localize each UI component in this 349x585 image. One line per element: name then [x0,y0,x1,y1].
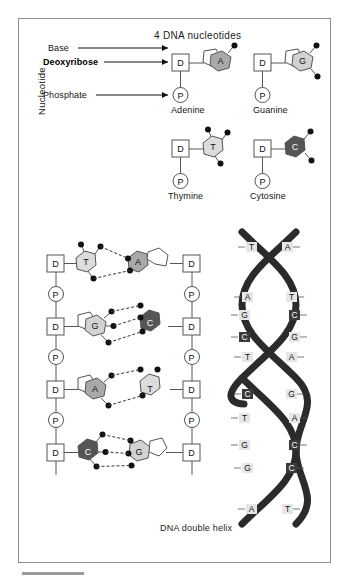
svg-text:D: D [52,448,59,458]
svg-text:D: D [188,322,195,332]
svg-text:G: G [135,447,142,457]
svg-text:P: P [177,91,183,101]
helix-base-1L: T [246,242,257,252]
callout-label-phosphate: Phosphate [43,90,87,100]
helix-base-1R: A [282,242,293,252]
svg-text:D: D [52,322,59,332]
helix-base-7L: T [239,413,250,423]
helix-base-8R: C [289,440,300,450]
helix-base-6R: G [286,389,297,399]
svg-text:D: D [188,385,195,395]
svg-text:P: P [188,290,194,300]
svg-text:A: A [92,384,98,394]
ladder-rung-1 [64,242,183,282]
svg-text:P: P [259,91,265,101]
helix-base-10R: T [282,504,293,514]
helix-base-6L: C [242,389,253,399]
svg-text:P: P [52,290,58,300]
svg-text:A: A [217,56,223,66]
figure-title: 4 DNA nucleotides [154,30,241,41]
svg-text:P: P [52,353,58,363]
helix-base-2L: A [242,292,253,302]
svg-text:D: D [177,144,184,154]
svg-text:T: T [147,384,153,394]
svg-text:D: D [259,58,266,68]
helix-base-7R: A [289,413,300,423]
svg-text:D: D [259,144,266,154]
svg-text:D: D [188,448,195,458]
ladder-rung-3 [64,367,183,409]
svg-text:T: T [210,142,216,152]
nucleotide-name-cytosine: Cytosine [250,191,286,201]
svg-text:G: G [91,321,98,331]
svg-text:D: D [188,259,195,269]
svg-text:A: A [135,257,141,267]
helix-base-3L: G [239,310,250,320]
nucleotide-name-guanine: Guanine [253,105,288,115]
svg-text:P: P [177,177,183,187]
double-helix-ribbons [231,232,308,524]
ladder-backbone-letters: DD DD DD DD PPP PPP [52,259,195,458]
helix-base-5L: T [242,352,253,362]
helix-caption: DNA double helix [160,523,232,533]
helix-base-5R: A [286,352,297,362]
helix-base-9L: G [242,463,253,473]
svg-text:T: T [83,257,89,267]
callout-label-base: Base [48,43,69,53]
svg-text:D: D [177,58,184,68]
svg-text:C: C [147,318,154,328]
helix-base-10L: A [246,504,257,514]
nucleotide-name-thymine: Thymine [168,191,203,201]
dna-structure-figure: D P A D P G [0,0,349,585]
helix-base-4R: G [289,332,300,342]
callout-label-deoxyribose: Deoxyribose [43,57,98,67]
ladder-rung-4 [64,432,183,470]
callout-arrows [78,48,168,95]
nucleotide-name-adenine: Adenine [171,105,205,115]
svg-text:P: P [52,416,58,426]
svg-text:P: P [188,353,194,363]
helix-base-3R: C [289,310,300,320]
svg-text:P: P [259,177,265,187]
ladder-rung-2 [64,303,183,346]
helix-base-9R: C [286,463,297,473]
svg-text:D: D [52,385,59,395]
helix-base-8L: G [239,440,250,450]
svg-text:C: C [292,142,299,152]
svg-text:P: P [188,416,194,426]
helix-base-2R: T [286,292,297,302]
svg-text:D: D [52,259,59,269]
helix-base-4L: C [239,332,250,342]
svg-text:C: C [85,447,92,457]
svg-text:G: G [299,56,306,66]
ladder-backbone [47,255,200,475]
